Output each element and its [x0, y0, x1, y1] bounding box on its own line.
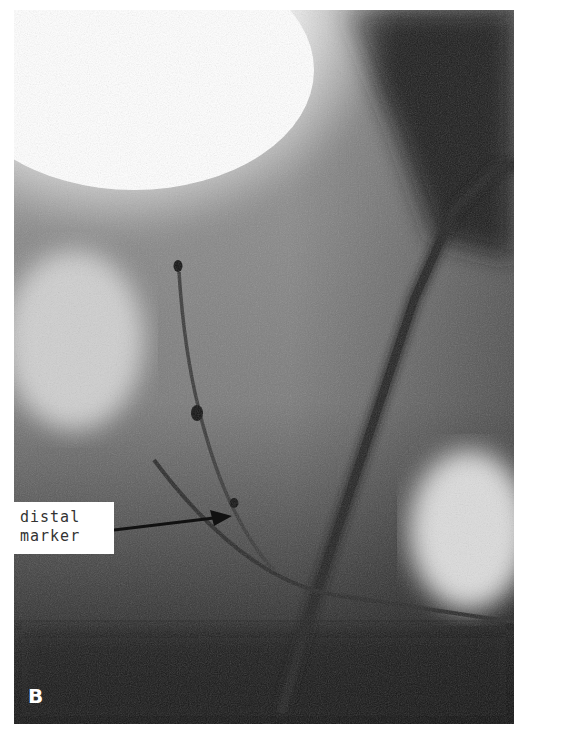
- annotation-label: distal marker: [14, 502, 114, 554]
- caption-fragment: [0, 728, 572, 741]
- xray-illustration: [14, 10, 514, 724]
- panel-label: B: [28, 684, 43, 708]
- arrow-icon: [114, 508, 234, 538]
- xray-image: [14, 10, 514, 724]
- annotation-text: distal marker: [20, 508, 80, 546]
